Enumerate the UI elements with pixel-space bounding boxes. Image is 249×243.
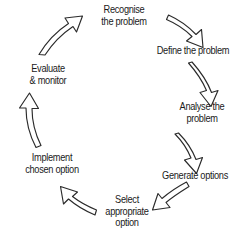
stage-label-implement: Implement chosen option (12, 152, 91, 175)
stage-label-generate: Generate options (149, 170, 241, 182)
problem-solving-cycle-diagram: Recognise the problem Define the problem… (0, 0, 249, 243)
arrow-evaluate-to-recognise (39, 16, 83, 55)
arrow-recognise-to-define (167, 15, 204, 48)
arrow-analyse-to-generate (175, 133, 203, 174)
arrow-implement-to-evaluate (20, 93, 42, 148)
stage-label-define: Define the problem (146, 45, 239, 57)
stage-label-analyse: Analyse the problem (165, 101, 239, 124)
stage-label-evaluate: Evaluate & monitor (15, 63, 80, 86)
stage-label-recognise: Recognise the problem (84, 4, 165, 27)
stage-label-select: Select appropriate option (91, 194, 163, 229)
